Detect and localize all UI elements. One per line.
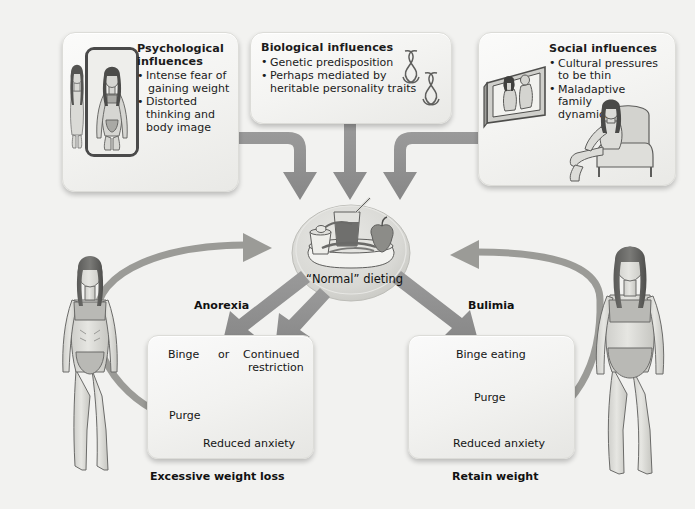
- diagram-canvas: Psychological influences Intense fear of…: [0, 0, 695, 509]
- anorexia-step-binge: Binge: [168, 348, 199, 361]
- bulimia-step-binge-eating: Binge eating: [456, 348, 526, 361]
- bulimia-step-reduced-anxiety: Reduced anxiety: [453, 437, 545, 450]
- psychological-text-block: Psychological influences Intense fear of…: [137, 43, 231, 134]
- bullet-line: Intense fear of: [146, 69, 226, 82]
- psychological-influences-box: Psychological influences Intense fear of…: [62, 32, 239, 192]
- bulimia-section-label: Bulimia: [468, 299, 514, 312]
- anorexia-step-restriction: restriction: [248, 361, 304, 374]
- normal-weight-woman-figure: [596, 247, 663, 475]
- bullet-line: Genetic predisposition: [270, 56, 393, 69]
- chromosome-icon: [395, 43, 443, 113]
- bullet-line: Perhaps mediated by: [270, 69, 387, 82]
- biological-title: Biological influences: [261, 42, 411, 55]
- psychological-title-line1: Psychological: [137, 43, 231, 56]
- bullet-line: gaining weight: [148, 82, 229, 95]
- bullet-line: thinking and: [146, 108, 215, 121]
- bullet: Intense fear of gaining weight: [137, 70, 231, 95]
- thin-woman-outside-mirror: [69, 47, 85, 151]
- bullet: Perhaps mediated by heritable personalit…: [261, 70, 411, 95]
- center-node-label: “Normal” dieting: [306, 272, 398, 286]
- anorexia-section-label: Anorexia: [194, 299, 249, 312]
- bullet: Cultural pressures to be thin: [549, 58, 669, 83]
- biological-influences-box: Biological influences Genetic predisposi…: [250, 32, 452, 124]
- bullet: Distorted thinking and body image: [137, 96, 231, 134]
- anorexia-step-purge: Purge: [169, 409, 201, 422]
- bullet-line: Distorted: [146, 95, 197, 108]
- bullet: Genetic predisposition: [261, 57, 411, 70]
- social-influences-box: Social influences Cultural pressures to …: [478, 32, 676, 186]
- psychological-title-line2: influences: [137, 56, 231, 69]
- bullet-line: body image: [146, 121, 211, 134]
- anorexia-outcome-caption: Excessive weight loss: [150, 470, 285, 483]
- biological-bullets: Genetic predisposition Perhaps mediated …: [261, 57, 411, 96]
- seated-woman-illustration: [557, 91, 669, 183]
- bulimia-outcome-caption: Retain weight: [452, 470, 538, 483]
- television-icon: [483, 61, 553, 133]
- psychological-bullets: Intense fear of gaining weight Distorted…: [137, 70, 231, 134]
- anorexia-step-continued: Continued: [243, 348, 299, 361]
- biological-text-block: Biological influences Genetic predisposi…: [261, 42, 411, 95]
- mirror-illustration: [85, 47, 139, 157]
- social-title: Social influences: [549, 43, 669, 56]
- bullet-line: Cultural pressures: [558, 57, 658, 70]
- anorexia-step-reduced-anxiety: Reduced anxiety: [203, 437, 295, 450]
- anorexia-step-or: or: [218, 348, 229, 361]
- bullet-line: to be thin: [558, 69, 611, 82]
- bulimia-step-purge: Purge: [474, 391, 506, 404]
